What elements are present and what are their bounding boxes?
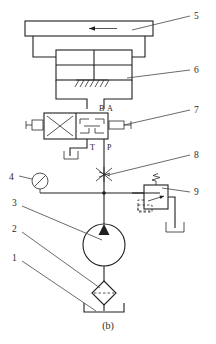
callout-1: 1 (12, 253, 96, 311)
ground-hatching-icon (75, 80, 109, 87)
callout-2-label: 2 (12, 224, 17, 234)
callout-4: 4 (9, 172, 32, 182)
valve-right-actuator-icon (109, 121, 131, 129)
valve-port-p: P (107, 143, 112, 152)
table-platen (25, 21, 153, 57)
callout-1-label: 1 (12, 253, 17, 263)
motion-arrow-icon (89, 26, 117, 30)
throttle-valve (96, 163, 112, 193)
hydraulic-cylinder (56, 50, 132, 109)
callout-5-label: 5 (194, 11, 199, 21)
relief-spring-icon (152, 174, 160, 186)
callout-8-label: 8 (194, 150, 199, 160)
pilot-line (138, 200, 152, 212)
figure-caption: (b) (102, 320, 114, 332)
valve-left-actuator-icon (26, 120, 43, 130)
valve-drain-tank-icon (64, 151, 78, 159)
callout-3: 3 (12, 198, 102, 240)
valve-parallel-position-icon (80, 119, 104, 133)
callout-7: 7 (124, 105, 199, 125)
valve-port-t: T (90, 143, 95, 152)
callout-3-label: 3 (12, 198, 17, 208)
pump (83, 224, 125, 281)
callout-7-label: 7 (194, 105, 199, 115)
valve-port-a: A (107, 104, 113, 113)
relief-valve (132, 174, 184, 233)
pressure-line (40, 191, 160, 224)
callout-6: 6 (127, 65, 199, 78)
directional-valve: B A T P (26, 104, 131, 163)
pump-flow-arrow-icon (99, 224, 110, 235)
callout-4-label: 4 (9, 172, 14, 182)
callout-8: 8 (108, 150, 199, 175)
valve-port-b: B (99, 104, 104, 113)
callout-9-label: 9 (194, 187, 199, 197)
callout-6-label: 6 (194, 65, 199, 75)
valve-crossed-position-icon (47, 116, 73, 136)
line-junction-dot (102, 191, 106, 195)
pressure-gauge (32, 173, 48, 193)
figure-canvas: B A T P (0, 0, 216, 344)
